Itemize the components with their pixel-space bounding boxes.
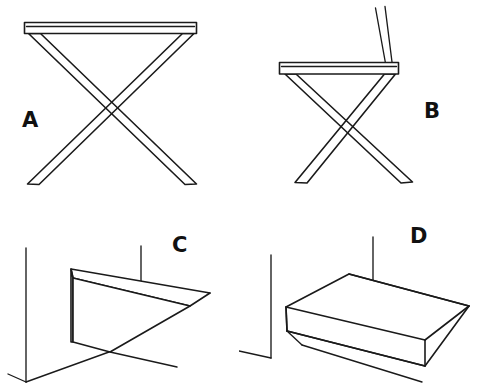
figure-b-seat-slab <box>280 63 399 75</box>
figure-c-drawing: C <box>0 196 239 391</box>
figure-c-shelf-slab <box>71 269 210 352</box>
figure-b-drawing: B <box>239 0 478 196</box>
figure-b-label: B <box>424 99 440 123</box>
figure-b-left-leg <box>285 74 413 183</box>
figure-a-drawing: A <box>0 0 239 196</box>
figure-sheet: A B <box>0 0 478 391</box>
figure-a-label: A <box>22 108 39 132</box>
figure-d-shelf-slab <box>286 274 469 366</box>
figure-b-backrest-rails <box>376 7 393 67</box>
figure-a-tabletop-slab <box>25 23 197 34</box>
figure-c-shelf-under-edge <box>110 352 177 367</box>
figure-d-label: D <box>410 224 427 248</box>
figure-c-label: C <box>172 233 187 257</box>
figure-d-drawing: D <box>239 196 478 391</box>
figure-b-right-leg <box>295 74 396 183</box>
